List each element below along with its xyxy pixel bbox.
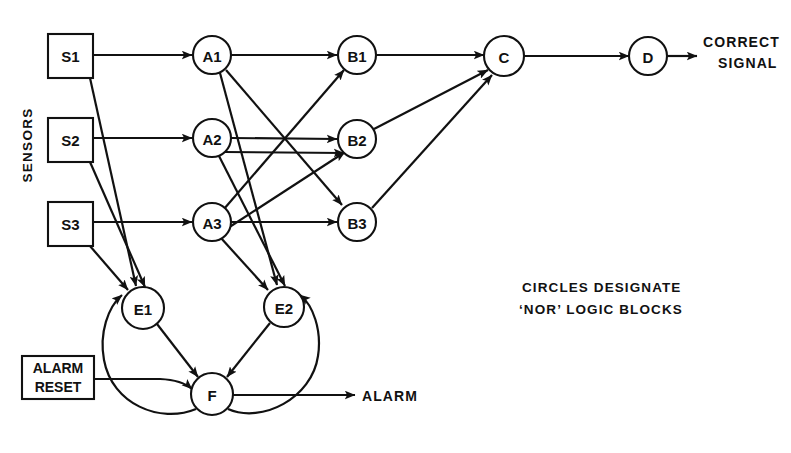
edge-b3-c (372, 75, 492, 208)
nor-block-a2-label: A2 (202, 131, 221, 148)
text-labels: SENSORS CORRECT SIGNAL ALARM CIRCLES DES… (20, 34, 780, 404)
legend-line-1: CIRCLES DESIGNATE (522, 280, 681, 295)
sensor-box-s2-label: S2 (61, 132, 79, 149)
nor-block-b1-label: B1 (347, 48, 366, 65)
nor-block-a1-label: A1 (202, 48, 221, 65)
sensor-box-s1-label: S1 (61, 48, 79, 65)
nor-block-e1-label: E1 (134, 301, 152, 318)
edge-s2-e1 (90, 162, 145, 287)
edge-layer (90, 55, 697, 414)
nor-block-d-label: D (643, 49, 654, 66)
edge-a3-e2 (221, 238, 268, 290)
legend-line-2-rest: LOGIC BLOCKS (561, 302, 683, 317)
logic-diagram: S1 S2 S3 ALARM RESET A1 A2 A3 B1 B2 B3 C… (0, 0, 791, 453)
nor-block-f-label: F (207, 387, 216, 404)
alarm-reset-label-line1: ALARM (33, 360, 84, 376)
legend-line-2: ‘NOR’ LOGIC BLOCKS (519, 302, 683, 317)
sensor-box-s3-label: S3 (61, 216, 79, 233)
alarm-output-label: ALARM (362, 388, 418, 404)
edge-alarm-reset-f (94, 379, 192, 389)
correct-signal-label-line1: CORRECT (703, 34, 780, 50)
edge-a2-b2-diag (228, 152, 345, 228)
alarm-reset-label-line2: RESET (35, 379, 82, 395)
nor-block-b2-label: B2 (347, 132, 366, 149)
correct-signal-label-line2: SIGNAL (718, 55, 778, 71)
nor-block-b3-label: B3 (347, 215, 366, 232)
legend-nor-word: NOR (524, 302, 557, 317)
nor-logic-blocks: A1 A2 A3 B1 B2 B3 C D E1 E2 F (122, 36, 667, 415)
edge-e2-f (227, 323, 270, 377)
nor-block-a3-label: A3 (202, 215, 221, 232)
edge-s3-e1 (90, 246, 128, 290)
nor-block-c-label: C (499, 49, 510, 66)
edge-e1-f (157, 324, 198, 377)
nor-block-e2-label: E2 (275, 300, 293, 317)
sensor-boxes: S1 S2 S3 ALARM RESET (22, 34, 94, 399)
sensors-group-label: SENSORS (20, 107, 35, 182)
diagram-canvas: S1 S2 S3 ALARM RESET A1 A2 A3 B1 B2 B3 C… (0, 0, 791, 453)
